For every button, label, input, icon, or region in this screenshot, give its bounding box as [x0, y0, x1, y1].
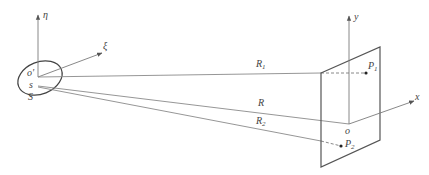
x-axis [349, 101, 414, 124]
xi-label: ξ [103, 40, 108, 52]
diagram: η ξ o' s S y x o P1 P2 R1 R R2 [0, 0, 429, 175]
point-p2 [339, 144, 342, 147]
r1-label: R1 [255, 58, 266, 71]
p2-label: P2 [344, 138, 355, 151]
ray-r2 [38, 87, 321, 141]
source-point-label: s [29, 79, 33, 90]
r2-label: R2 [255, 115, 266, 128]
eta-label: η [43, 9, 48, 20]
aperture-label: S [28, 91, 33, 102]
x-label: x [414, 91, 420, 102]
p1-label: P1 [367, 60, 378, 73]
origin-label: o [345, 125, 350, 136]
aperture-ellipse [13, 55, 68, 102]
point-p1 [364, 71, 367, 74]
y-label: y [353, 11, 359, 22]
origin-prime-label: o' [27, 67, 35, 78]
ray-r1 [38, 73, 321, 77]
xi-axis [38, 53, 102, 77]
ray-r [38, 86, 349, 124]
dash-p2 [321, 141, 341, 146]
r-label: R [257, 97, 264, 108]
